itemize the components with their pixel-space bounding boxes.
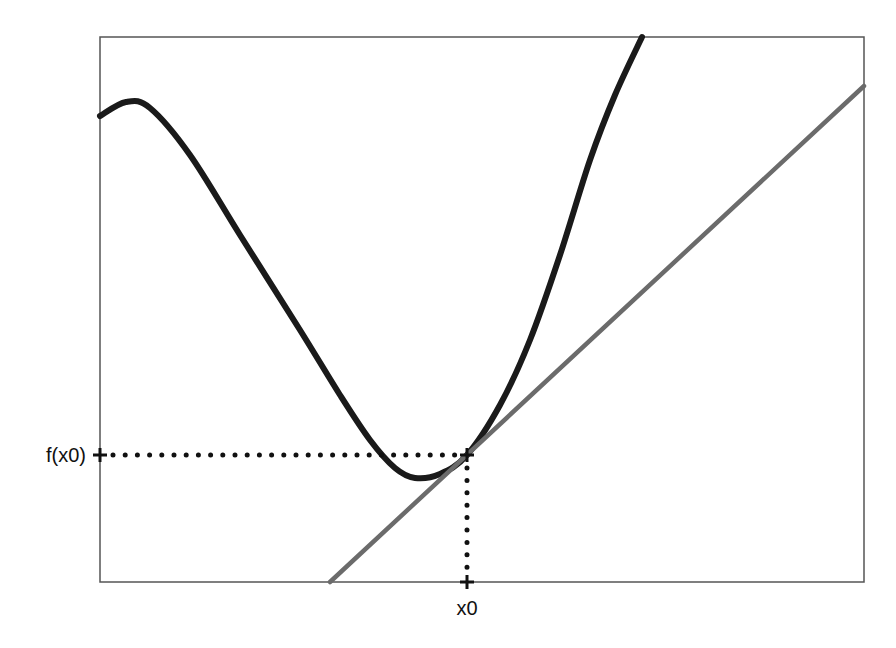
plot-frame <box>100 37 864 582</box>
function-curve <box>100 37 642 478</box>
tangent-line <box>330 86 864 582</box>
y-axis-plus-marker <box>93 448 107 462</box>
y-marker-label: f(x0) <box>46 444 86 466</box>
x-axis-plus-marker <box>460 575 474 589</box>
x-marker-label: x0 <box>456 597 477 619</box>
tangent-diagram: f(x0) x0 <box>0 0 896 648</box>
